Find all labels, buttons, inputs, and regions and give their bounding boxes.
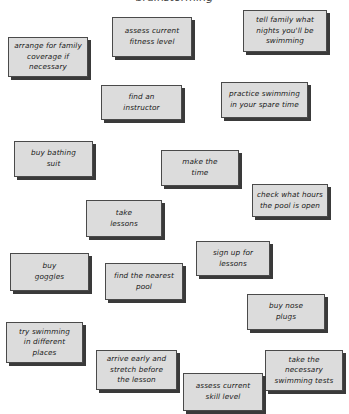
sticky-note-buy-nose-plugs[interactable]: buy nose plugs [247, 294, 325, 330]
sticky-note-label: buy bathing suit [18, 148, 89, 169]
sticky-note-take-necessary-swimming-tests[interactable]: take the necessary swimming tests [265, 350, 343, 391]
sticky-note-buy-goggles[interactable]: buy goggles [10, 253, 89, 291]
sticky-note-label: sign up for lessons [200, 248, 266, 269]
sticky-note-label: tell family what nights you'll be swimmi… [247, 15, 323, 47]
sticky-note-find-the-nearest-pool[interactable]: find the nearest pool [105, 263, 183, 300]
sticky-note-label: take lessons [90, 208, 158, 229]
sticky-note-label: assess current fitness level [116, 26, 188, 47]
sticky-note-label: make the time [165, 157, 235, 178]
sticky-note-label: assess current skill level [187, 381, 259, 402]
sticky-note-assess-current-fitness-level[interactable]: assess current fitness level [112, 17, 192, 57]
sticky-note-label: arrive early and stretch before the less… [100, 354, 173, 386]
sticky-note-label: check what hours the pool is open [256, 190, 324, 211]
sticky-note-practice-swimming-spare-time[interactable]: practice swimming in your spare time [221, 82, 308, 118]
sticky-note-label: find the nearest pool [109, 271, 179, 292]
sticky-note-find-an-instructor[interactable]: find an instructor [101, 85, 182, 120]
sticky-note-label: take the necessary swimming tests [269, 355, 339, 387]
sticky-note-tell-family-what-nights[interactable]: tell family what nights you'll be swimmi… [243, 10, 327, 52]
brainstorm-diagram-canvas: brainstorming arrange for family coverag… [0, 0, 349, 414]
diagram-title-band: brainstorming [0, 0, 349, 7]
sticky-note-arrange-for-family-coverage[interactable]: arrange for family coverage if necessary [8, 37, 88, 77]
sticky-note-label: arrange for family coverage if necessary [12, 41, 84, 73]
sticky-note-make-the-time[interactable]: make the time [161, 150, 239, 186]
sticky-note-arrive-early-and-stretch[interactable]: arrive early and stretch before the less… [96, 350, 177, 390]
sticky-note-label: buy nose plugs [251, 301, 321, 322]
sticky-note-label: try swimming in different places [10, 327, 79, 359]
page-title: brainstorming [0, 0, 349, 4]
sticky-note-label: buy goggles [14, 261, 85, 282]
sticky-note-check-what-hours-pool-open[interactable]: check what hours the pool is open [252, 184, 328, 217]
sticky-note-sign-up-for-lessons[interactable]: sign up for lessons [196, 241, 270, 276]
sticky-note-label: find an instructor [105, 92, 178, 113]
sticky-note-label: practice swimming in your spare time [225, 89, 304, 110]
sticky-note-assess-current-skill-level[interactable]: assess current skill level [183, 373, 263, 411]
sticky-note-try-swimming-different-places[interactable]: try swimming in different places [6, 322, 83, 363]
sticky-note-buy-bathing-suit[interactable]: buy bathing suit [14, 141, 93, 177]
sticky-note-take-lessons[interactable]: take lessons [86, 200, 162, 237]
